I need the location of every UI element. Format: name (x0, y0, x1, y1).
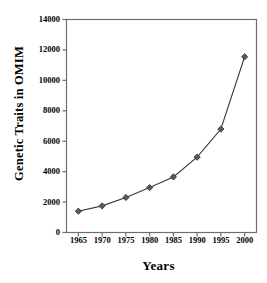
data-point-marker (123, 194, 129, 200)
plot-frame (67, 20, 257, 233)
data-point-marker (99, 203, 105, 209)
data-point-marker (147, 185, 153, 191)
y-axis-tick-label: 14000 (14, 15, 60, 24)
data-point-marker (242, 54, 248, 60)
y-axis-title: Genetic Traits in OMIM (12, 24, 27, 204)
y-axis-tick-label: 0 (14, 228, 60, 237)
x-axis-tick-label: 2000 (225, 236, 265, 245)
data-series-line (78, 57, 244, 211)
data-point-marker (75, 208, 81, 214)
x-axis-title: Years (60, 258, 257, 274)
chart-figure: 02000400060008000100001200014000 1965197… (0, 0, 267, 283)
